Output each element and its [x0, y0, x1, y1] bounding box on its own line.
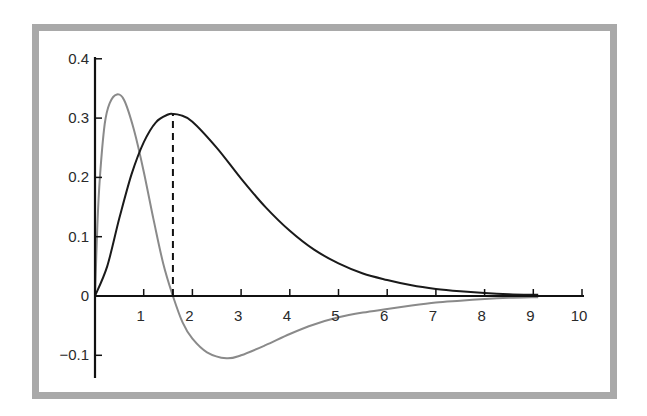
x-tick-label: 4: [283, 307, 291, 324]
line-chart: 12345678910 0.40.30.20.10−0.1: [0, 0, 647, 416]
x-tick-label: 2: [185, 307, 193, 324]
density-curve-path: [95, 114, 538, 296]
x-tick-label: 5: [331, 307, 339, 324]
derivative-curve-path: [95, 94, 538, 358]
x-tick-label: 3: [234, 307, 242, 324]
x-tick-label: 7: [429, 307, 437, 324]
derivative-curve: [95, 94, 538, 358]
y-tick-label: 0.4: [68, 50, 89, 67]
y-tick-label: 0.1: [68, 228, 89, 245]
x-tick-label: 1: [137, 307, 145, 324]
x-tick-label: 8: [477, 307, 485, 324]
x-tick-label: 6: [380, 307, 388, 324]
y-tick-label: 0.2: [68, 168, 89, 185]
y-tick-label: −0.1: [59, 346, 89, 363]
y-tick-label: 0: [81, 287, 89, 304]
density-curve: [95, 114, 538, 296]
axes: [95, 57, 584, 378]
x-tick-label: 9: [526, 307, 534, 324]
x-tick-label: 10: [571, 307, 588, 324]
y-tick-label: 0.3: [68, 109, 89, 126]
